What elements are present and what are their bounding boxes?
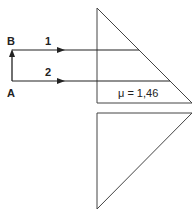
label-ray-1: 1 [45, 35, 51, 47]
ray-2-arrowhead-icon [57, 78, 65, 84]
label-refractive-index: μ = 1,46 [118, 87, 158, 99]
label-ray-2: 2 [45, 66, 51, 78]
label-a: A [7, 87, 15, 99]
label-b: B [7, 35, 15, 47]
ray-1-arrowhead-icon [57, 47, 65, 53]
lower-prism [97, 113, 192, 209]
prism-diagram: B A 1 2 μ = 1,46 [0, 0, 194, 220]
